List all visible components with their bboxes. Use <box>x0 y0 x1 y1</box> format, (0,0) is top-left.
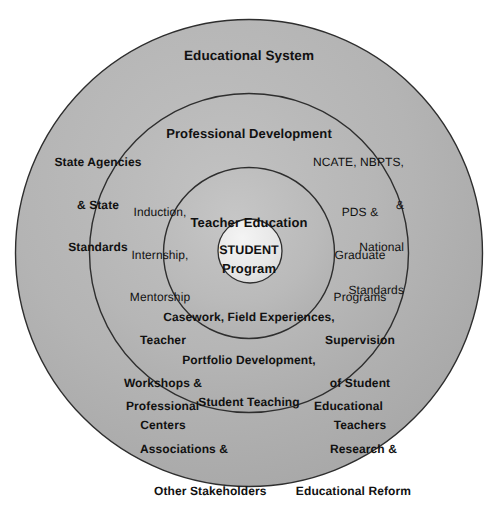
label-pds-line2: Graduate <box>334 248 387 262</box>
label-casework-line1: Casework, Field Experiences, <box>163 310 335 324</box>
heading-student: STUDENT <box>219 243 279 258</box>
label-supervision-line2: of Student <box>325 376 395 390</box>
label-edu-research-line3: Educational Reform <box>296 484 411 498</box>
label-state-agencies-line1: State Agencies <box>55 155 142 169</box>
label-casework-field-experiences: Casework, Field Experiences, Portfolio D… <box>163 282 335 438</box>
heading-educational-system: Educational System <box>184 48 314 64</box>
heading-professional-development: Professional Development <box>166 126 332 141</box>
concentric-diagram: Educational System Professional Developm… <box>0 0 494 509</box>
heading-tep-line1: Teacher Education <box>190 215 307 230</box>
label-induction-line1: Induction, <box>130 205 190 219</box>
label-prof-assoc-line3: Other Stakeholders <box>126 484 267 498</box>
label-supervision-line3: Teachers <box>325 418 395 432</box>
label-supervision-line1: Supervision <box>325 333 395 347</box>
label-state-agencies-line2: & State <box>55 198 142 212</box>
label-pds-line1: PDS & <box>334 205 387 219</box>
label-casework-line2: Portfolio Development, <box>163 353 335 367</box>
label-induction-line2: Internship, <box>130 248 190 262</box>
label-state-agencies-line3: Standards <box>55 240 142 254</box>
label-casework-line3: Student Teaching <box>163 395 335 409</box>
label-supervision-of-student-teachers: Supervision of Student Teachers <box>325 305 395 461</box>
label-state-agencies: State Agencies & State Standards <box>55 127 142 283</box>
label-pds-line3: Programs <box>334 290 387 304</box>
label-ncate-line1: NCATE, NBPTS, <box>313 155 404 169</box>
heading-tep-line2: Program <box>190 261 307 276</box>
